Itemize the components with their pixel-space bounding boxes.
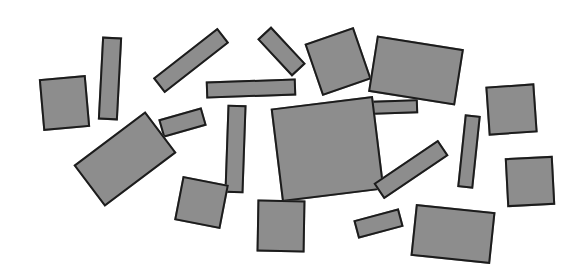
large-square-center	[271, 96, 385, 202]
small-bar-lower-center	[353, 208, 403, 239]
square-upper-center	[304, 27, 371, 96]
square-lower-center	[257, 200, 306, 253]
tall-bar-center	[224, 105, 246, 194]
tall-bar-upper-left	[98, 37, 122, 121]
square-lower-left	[174, 176, 229, 229]
large-rect-upper-right	[368, 35, 464, 105]
diagonal-bar-lower-right	[373, 140, 448, 199]
horizontal-bar-upper-center	[206, 78, 297, 98]
small-bar-right-of-center	[372, 99, 418, 115]
small-bar-mid-left	[158, 107, 206, 138]
diagonal-bar-upper-center	[257, 26, 306, 76]
shape-canvas	[0, 0, 580, 277]
tall-bar-right-of-center	[457, 114, 481, 188]
square-left-edge	[39, 75, 90, 131]
square-right-edge-lower	[505, 156, 555, 207]
square-right-edge-upper	[485, 83, 537, 135]
large-rect-lower-right	[411, 204, 496, 264]
